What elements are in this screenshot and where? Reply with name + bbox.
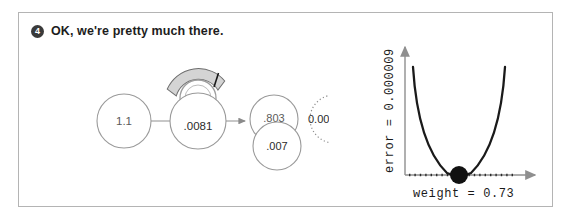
x-axis-label: weight = 0.73 (413, 187, 514, 201)
caption: 4 OK, we're pretty much there. (31, 24, 223, 38)
step-number-badge: 4 (31, 25, 44, 38)
goal-node: .007 (253, 122, 301, 170)
error-node-label: 0.0000054 (308, 113, 329, 125)
error-weight-plot: error = 0.000009 weight = 0.73 (339, 25, 551, 205)
screenshot-root: 4 OK, we're pretty much there. 1. (0, 0, 569, 217)
y-axis-label: error = 0.000009 (383, 48, 397, 173)
delta-node-label: .0081 (184, 120, 213, 132)
caption-text: OK, we're pretty much there. (51, 24, 223, 38)
input-node: 1.1 (97, 94, 151, 148)
error-node: 0.0000054 (308, 95, 329, 143)
delta-node: .0081 (170, 93, 226, 149)
error-curve (413, 67, 505, 176)
current-position-dot (450, 166, 468, 184)
goal-node-label: .007 (266, 140, 287, 152)
input-node-label: 1.1 (116, 115, 132, 127)
figure-panel: 4 OK, we're pretty much there. 1. (18, 12, 553, 207)
network-diagram: 1.1 .73 .0081 .803 .007 (69, 51, 329, 191)
